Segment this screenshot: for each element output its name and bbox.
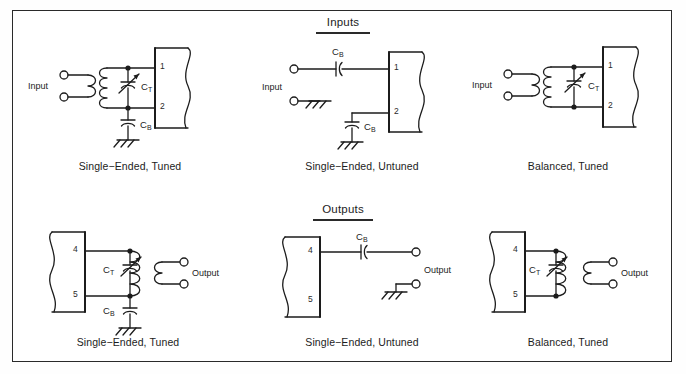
port-label-input-2: Input — [262, 82, 282, 92]
cb-letter-d: C — [103, 305, 110, 316]
pin-label-4-b: 4 — [308, 245, 313, 255]
port-label-output-2: Output — [424, 265, 451, 275]
cb-letter-b1: C — [332, 46, 339, 57]
capacitor-label-ct-f: CT — [529, 264, 540, 276]
port-label-output-1: Output — [192, 268, 219, 278]
capacitor-label-cb-a: CB — [140, 119, 152, 131]
circuit-caption-output-balanced-tuned: Balanced, Tuned — [488, 336, 648, 348]
capacitor-label-cb-d: CB — [103, 305, 115, 317]
capacitor-label-cb-series-e: CB — [356, 231, 368, 243]
cb-letter-b2: C — [364, 121, 371, 132]
pin-label-2-b: 2 — [394, 106, 399, 116]
ct-letter-d: C — [103, 264, 110, 275]
circuit-caption-output-single-ended-tuned: Single−Ended, Tuned — [38, 336, 218, 348]
pin-label-2-c: 2 — [608, 100, 613, 110]
capacitor-label-cb-bypass-b: CB — [364, 121, 376, 133]
cb-sub-a: B — [147, 124, 152, 131]
ct-letter-a: C — [141, 81, 148, 92]
ct-letter-c: C — [588, 80, 595, 91]
pin-label-4-c: 4 — [513, 244, 518, 254]
ct-sub-d: T — [110, 269, 114, 276]
section-heading-inputs: Inputs — [305, 16, 381, 28]
capacitor-label-ct-d: CT — [103, 264, 114, 276]
pin-label-5-a: 5 — [73, 289, 78, 299]
pin-label-1-c: 1 — [608, 60, 613, 70]
capacitor-label-ct-a: CT — [141, 81, 152, 93]
circuit-caption-input-balanced-tuned: Balanced, Tuned — [488, 160, 648, 172]
port-label-input-1: Input — [28, 81, 48, 91]
pin-label-1-b: 1 — [394, 62, 399, 72]
circuit-caption-input-single-ended-tuned: Single−Ended, Tuned — [40, 160, 220, 172]
port-label-output-3: Output — [621, 268, 648, 278]
capacitor-label-ct-c: CT — [588, 80, 599, 92]
diagram-sheet: Inputs Outputs Input 1 2 CT CB Single−En… — [0, 0, 686, 374]
port-label-input-3: Input — [472, 80, 492, 90]
section-heading-inputs-underline — [316, 32, 370, 34]
cb-letter-e: C — [356, 231, 363, 242]
cb-sub-b1: B — [339, 51, 344, 58]
ct-sub-c: T — [595, 85, 599, 92]
capacitor-label-cb-series-b: CB — [332, 46, 344, 58]
pin-label-4-a: 4 — [73, 244, 78, 254]
pin-label-2-a: 2 — [160, 101, 165, 111]
ct-sub-a: T — [148, 86, 152, 93]
cb-sub-e: B — [363, 236, 368, 243]
pin-label-5-c: 5 — [513, 289, 518, 299]
circuit-caption-input-single-ended-untuned: Single−Ended, Untuned — [262, 160, 462, 172]
cb-sub-d: B — [110, 310, 115, 317]
section-heading-outputs: Outputs — [303, 203, 383, 215]
section-heading-outputs-underline — [313, 219, 373, 221]
ct-letter-f: C — [529, 264, 536, 275]
ct-sub-f: T — [536, 269, 540, 276]
circuit-caption-output-single-ended-untuned: Single−Ended, Untuned — [262, 336, 462, 348]
pin-label-5-b: 5 — [308, 294, 313, 304]
cb-sub-b2: B — [371, 126, 376, 133]
cb-letter-a: C — [140, 119, 147, 130]
pin-label-1-a: 1 — [160, 61, 165, 71]
